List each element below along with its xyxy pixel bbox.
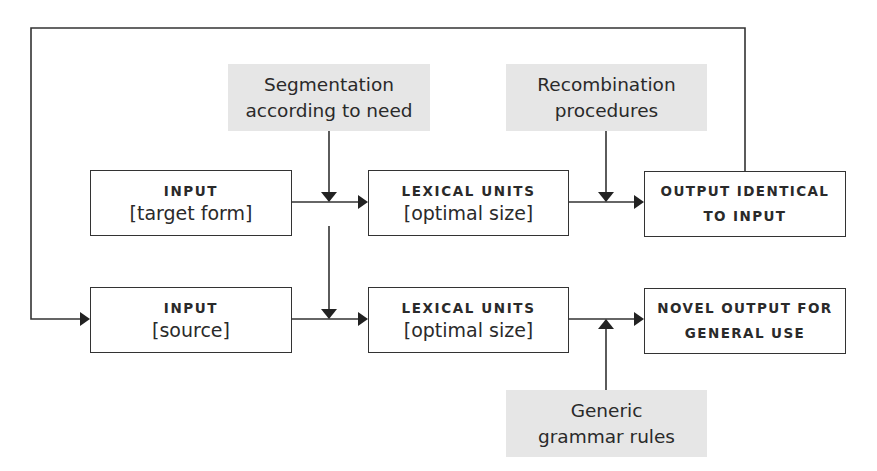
- recombination-label: Recombination procedures: [506, 64, 707, 131]
- row1-output-box: OUTPUT IDENTICAL TO INPUT: [644, 171, 846, 237]
- arrowhead-right-icon: [358, 195, 368, 209]
- arrowhead-right-icon: [634, 195, 644, 209]
- row1-lexical-box: LEXICAL UNITS [optimal size]: [368, 170, 569, 236]
- arrowhead-right-icon: [634, 312, 644, 326]
- row1-input-sub: [target form]: [130, 201, 253, 225]
- row1-lexical-sub: [optimal size]: [404, 201, 534, 225]
- grammar-rules-label: Generic grammar rules: [506, 390, 707, 457]
- row2-input-box: INPUT [source]: [90, 287, 292, 353]
- row2-lexical-sub: [optimal size]: [404, 318, 534, 342]
- row1-input-box: INPUT [target form]: [90, 170, 292, 236]
- row1-lexical-title: LEXICAL UNITS: [402, 181, 536, 201]
- row2-lexical-title: LEXICAL UNITS: [402, 298, 536, 318]
- row2-lexical-box: LEXICAL UNITS [optimal size]: [368, 287, 569, 353]
- row2-output-line2: GENERAL USE: [685, 321, 805, 346]
- arrowhead-down-icon: [321, 309, 337, 319]
- grammar-label-line1: Generic: [571, 398, 643, 424]
- grammar-label-line2: grammar rules: [538, 424, 675, 450]
- arrowhead-right-icon: [80, 312, 90, 326]
- row1-output-line1: OUTPUT IDENTICAL: [661, 179, 830, 204]
- row2-output-box: NOVEL OUTPUT FOR GENERAL USE: [644, 288, 846, 354]
- arrowhead-right-icon: [358, 312, 368, 326]
- row2-input-sub: [source]: [152, 318, 230, 342]
- row1-input-title: INPUT: [164, 181, 218, 201]
- row1-output-line2: TO INPUT: [704, 204, 787, 229]
- arrowhead-down-icon: [321, 192, 337, 202]
- row2-output-line1: NOVEL OUTPUT FOR: [657, 296, 832, 321]
- segmentation-label-line2: according to need: [245, 98, 412, 124]
- segmentation-label-line1: Segmentation: [264, 72, 394, 98]
- row2-input-title: INPUT: [164, 298, 218, 318]
- recombination-label-line1: Recombination: [537, 72, 675, 98]
- arrowhead-up-icon: [598, 319, 614, 329]
- arrowhead-down-icon: [598, 192, 614, 202]
- segmentation-label: Segmentation according to need: [228, 64, 430, 131]
- recombination-label-line2: procedures: [555, 98, 659, 124]
